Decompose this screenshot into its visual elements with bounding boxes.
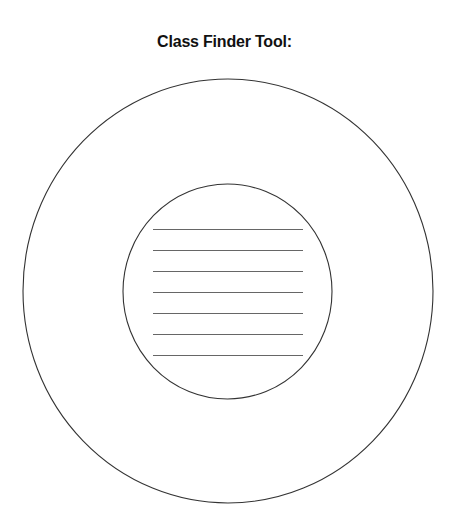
outer-circle (23, 79, 433, 503)
inner-circle (123, 184, 332, 399)
writing-lines (153, 230, 303, 356)
class-finder-diagram (0, 0, 449, 527)
